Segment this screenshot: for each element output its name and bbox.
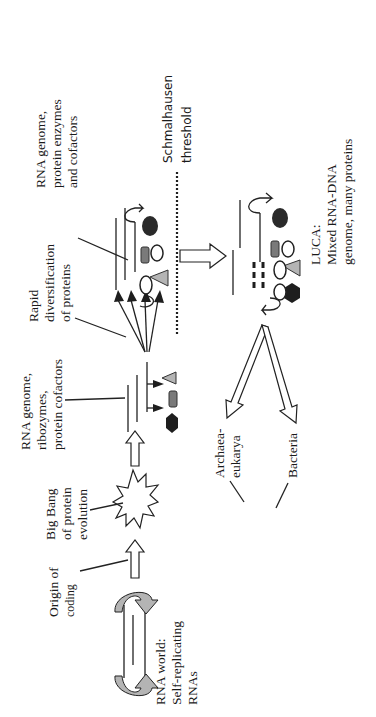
enzyme-blob-icon xyxy=(140,276,152,294)
label-archaea-eukarya: Archaea- eukarya xyxy=(212,425,243,478)
label-bacteria: Bacteria xyxy=(285,433,300,478)
label-rna-genome-ribozymes: RNA genome, ribozymes, protein cofactors xyxy=(18,359,65,450)
label-rapid-diversification: Rapid diversification of proteins xyxy=(26,241,73,322)
evolution-diagram: RNA world: Self-replicating RNAs Origin … xyxy=(0,0,376,717)
triangle-cofactor-icon xyxy=(162,372,176,384)
hexagon-cofactor-icon xyxy=(166,413,178,433)
enzyme-blob-icon xyxy=(142,216,158,236)
arrow-to-ribozymes-stage xyxy=(126,431,144,466)
big-bang-starburst-icon xyxy=(113,470,158,528)
luca-genome xyxy=(233,193,300,315)
label-origin-of-coding: Origin of coding xyxy=(46,564,77,617)
enzyme-blob-icon xyxy=(151,245,163,261)
arrow-to-luca xyxy=(180,244,226,268)
label-rna-genome-enzymes: RNA genome, protein enzymes and cofactor… xyxy=(33,96,80,188)
arrow-to-archaea-eukarya xyxy=(226,325,268,418)
rectangle-cofactor-icon xyxy=(169,391,177,407)
label-schmalhausen-threshold: Schmalhausen threshold xyxy=(161,71,194,163)
arrow-origin-of-coding xyxy=(126,540,144,578)
label-luca: LUCA: Mixed RNA-DNA genome, many protein… xyxy=(308,139,355,265)
triangle-cofactor-icon xyxy=(150,270,168,286)
rna-world-replication-cycle xyxy=(115,592,158,695)
label-big-bang: Big Bang of protein evolution xyxy=(43,484,90,540)
diversification-arrows xyxy=(114,290,164,352)
rectangle-cofactor-icon xyxy=(141,247,149,263)
label-rna-world: RNA world: Self-replicating RNAs xyxy=(153,618,200,705)
ribozyme-stage-genome xyxy=(128,362,178,433)
arrow-to-bacteria xyxy=(262,325,297,423)
